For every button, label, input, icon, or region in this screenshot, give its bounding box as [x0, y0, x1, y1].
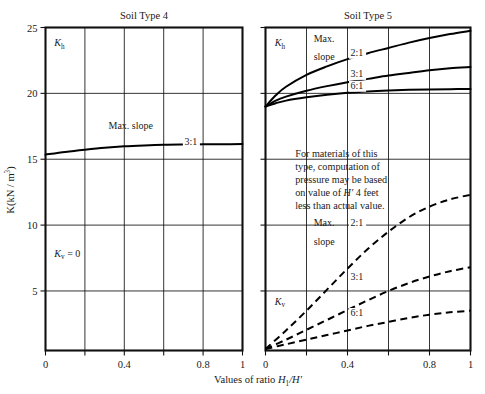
x-tick-label: 1 — [240, 359, 245, 370]
y-tick-label: 15 — [27, 154, 38, 165]
x-tick-label: 0 — [263, 359, 268, 370]
annotation: Max. — [314, 33, 335, 44]
x-tick-label: 0 — [43, 359, 48, 370]
x-axis-label: Values of ratio H1/H′ — [214, 374, 303, 388]
annotation: Kh — [53, 37, 65, 51]
annotation: Max. slope — [109, 120, 154, 131]
curve-label-6-1: 6:1 — [351, 80, 364, 91]
annotation: Max. — [314, 217, 335, 228]
y-tick-label: 5 — [32, 286, 37, 297]
chart-soil-type-5: Soil Type 500.40.812:13:16:12:13:16:1KhM… — [261, 10, 474, 370]
annotation: Kh — [274, 37, 286, 51]
curve-kv-6-1 — [266, 311, 471, 349]
curve-label-3-1: 3:1 — [351, 271, 364, 282]
plot-frame — [46, 28, 243, 351]
note-line: For materials of this — [295, 148, 377, 159]
chart-soil-type-4: Soil Type 400.40.815101520253:1KhMax. sl… — [27, 10, 245, 370]
annotation: Kv — [274, 296, 286, 310]
curve-kh-3-1 — [266, 67, 471, 107]
y-tick-label: 20 — [27, 88, 38, 99]
note-line: pressure may be based — [295, 174, 387, 185]
curve-label-3-1: 3:1 — [351, 68, 364, 79]
curve-kh-6-1 — [266, 89, 471, 107]
x-tick-label: 1 — [468, 359, 473, 370]
curve-kv-3-1 — [266, 267, 471, 349]
y-axis-label: K(kN / m3) — [4, 166, 17, 214]
x-tick-label: 0.8 — [423, 359, 436, 370]
note-line: less than actual value. — [295, 200, 384, 211]
note-line: on value of H′ 4 feet — [295, 187, 379, 198]
curve-label-2-1: 2:1 — [351, 217, 364, 228]
chart-title-0: Soil Type 4 — [120, 10, 169, 21]
y-tick-label: 25 — [27, 23, 38, 34]
annotation: Kv = 0 — [53, 248, 80, 262]
x-tick-label: 0.4 — [118, 359, 132, 370]
chart-title-1: Soil Type 5 — [344, 10, 392, 21]
annotation: slope — [314, 51, 336, 62]
curve-label-6-1: 6:1 — [351, 307, 364, 318]
y-tick-label: 10 — [27, 220, 38, 231]
x-tick-label: 0.8 — [197, 359, 210, 370]
curve-label-2-1: 2:1 — [351, 47, 364, 58]
annotation: slope — [314, 236, 336, 247]
chart-svg: Soil Type 400.40.815101520253:1KhMax. sl… — [0, 0, 485, 394]
note-line: type, computation of — [295, 161, 380, 172]
curve-label-3-1: 3:1 — [184, 136, 197, 147]
x-tick-label: 0.4 — [341, 359, 355, 370]
shared-axis-labels: Values of ratio H1/H′K(kN / m3) — [4, 166, 303, 388]
curve-3-1 — [46, 144, 243, 155]
figure-container: Soil Type 400.40.815101520253:1KhMax. sl… — [0, 0, 485, 394]
